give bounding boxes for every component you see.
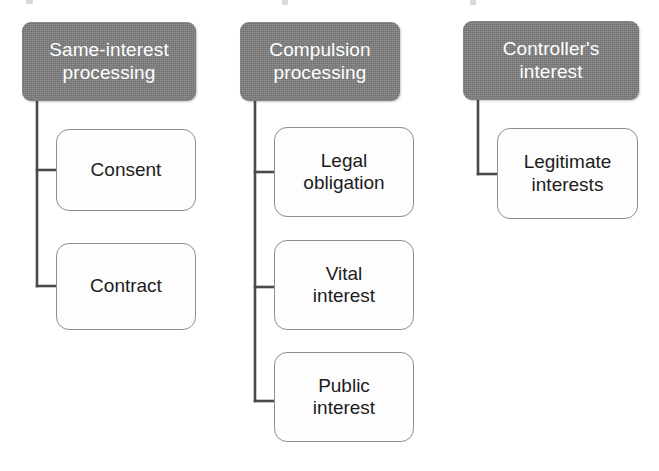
header-controllers-interest[interactable]: Controller's interest xyxy=(463,21,639,100)
node-public-interest[interactable]: Public interest xyxy=(274,352,414,442)
node-legitimate-interests[interactable]: Legitimate interests xyxy=(497,128,638,219)
node-legal-obligation[interactable]: Legal obligation xyxy=(274,127,414,217)
header-same-interest-processing[interactable]: Same-interest processing xyxy=(22,22,196,101)
header-compulsion-processing[interactable]: Compulsion processing xyxy=(240,22,400,101)
node-consent[interactable]: Consent xyxy=(56,129,196,211)
node-label: Legitimate interests xyxy=(518,151,618,195)
node-label: Public interest xyxy=(307,375,381,419)
node-label: Legal obligation xyxy=(297,150,390,194)
lawful-basis-diagram: Same-interest processing Consent Contrac… xyxy=(0,0,659,471)
header-label: Compulsion processing xyxy=(263,39,376,83)
header-label: Same-interest processing xyxy=(43,39,175,83)
node-vital-interest[interactable]: Vital interest xyxy=(274,240,414,330)
header-label: Controller's interest xyxy=(497,38,606,82)
node-label: Consent xyxy=(85,159,168,181)
node-contract[interactable]: Contract xyxy=(56,243,196,330)
node-label: Vital interest xyxy=(307,263,381,307)
node-label: Contract xyxy=(84,275,168,297)
